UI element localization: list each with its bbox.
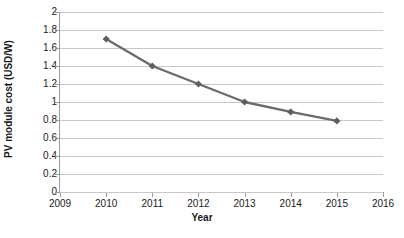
y-axis-tick-labels: 21.81.61.41.210.80.60.40.20 bbox=[26, 0, 57, 194]
y-axis-tick-mark bbox=[55, 30, 59, 31]
y-axis-tick-mark bbox=[55, 66, 59, 67]
y-axis-tick-label: 0 bbox=[26, 187, 57, 197]
x-axis-tick-mark bbox=[152, 193, 153, 197]
y-axis-tick-label: 1.8 bbox=[26, 25, 57, 35]
y-axis-tick-mark bbox=[55, 12, 59, 13]
x-axis-tick-label: 2013 bbox=[223, 198, 267, 210]
x-axis-tick-label: 2010 bbox=[84, 198, 128, 210]
data-point-marker bbox=[287, 108, 294, 115]
x-axis-tick-mark bbox=[383, 193, 384, 197]
y-axis-tick-mark bbox=[55, 48, 59, 49]
y-axis-tick-mark bbox=[55, 102, 59, 103]
x-axis-tick-mark bbox=[60, 193, 61, 197]
y-axis-tick-label: 2 bbox=[26, 7, 57, 17]
x-axis-tick-mark bbox=[245, 193, 246, 197]
data-series-line bbox=[60, 12, 383, 192]
y-axis-tick-mark bbox=[55, 120, 59, 121]
y-axis-tick-mark bbox=[55, 156, 59, 157]
y-axis-tick-label: 1.4 bbox=[26, 61, 57, 71]
y-axis-tick-mark bbox=[55, 84, 59, 85]
y-axis-tick-label: 1.6 bbox=[26, 43, 57, 53]
x-axis-tick-label: 2009 bbox=[38, 198, 82, 210]
y-axis-tick-label: 1 bbox=[26, 97, 57, 107]
y-axis-tick-mark bbox=[55, 192, 59, 193]
y-axis-tick-mark bbox=[55, 174, 59, 175]
y-axis-tick-label: 0.6 bbox=[26, 133, 57, 143]
x-axis-tick-mark bbox=[106, 193, 107, 197]
line-chart: PV module cost (USD/W) 21.81.61.41.210.8… bbox=[0, 0, 404, 238]
y-axis-title: PV module cost (USD/W) bbox=[2, 4, 16, 194]
x-axis-tick-mark bbox=[198, 193, 199, 197]
x-axis-tick-label: 2016 bbox=[361, 198, 404, 210]
x-axis-tick-label: 2015 bbox=[315, 198, 359, 210]
y-axis-tick-label: 1.2 bbox=[26, 79, 57, 89]
x-axis-tick-label: 2012 bbox=[176, 198, 220, 210]
x-axis-tick-label: 2014 bbox=[269, 198, 313, 210]
x-axis-title: Year bbox=[0, 212, 404, 223]
y-axis-tick-mark bbox=[55, 138, 59, 139]
y-axis-tick-label: 0.2 bbox=[26, 169, 57, 179]
data-point-marker bbox=[241, 98, 248, 105]
x-axis-tick-mark bbox=[291, 193, 292, 197]
gridline bbox=[60, 192, 383, 193]
x-axis-tick-label: 2011 bbox=[130, 198, 174, 210]
data-point-marker bbox=[333, 117, 340, 124]
plot-area bbox=[60, 12, 383, 192]
y-axis-tick-label: 0.4 bbox=[26, 151, 57, 161]
series-line bbox=[106, 39, 337, 121]
x-axis-tick-labels: 20092010201120122013201420152016 bbox=[0, 198, 404, 212]
x-axis-tick-mark bbox=[337, 193, 338, 197]
y-axis-tick-label: 0.8 bbox=[26, 115, 57, 125]
data-point-marker bbox=[195, 80, 202, 87]
